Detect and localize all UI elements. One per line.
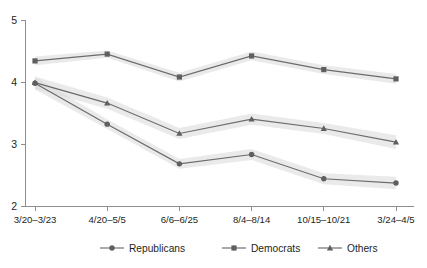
confidence-bands (35, 50, 396, 189)
data-point-republicans (393, 180, 398, 185)
legend-label-others: Others (347, 243, 378, 254)
x-tick-label: 6/6–6/25 (161, 214, 198, 225)
chart-plot-area: 2345 3/20–3/234/20–5/56/6–6/258/4–8/1410… (0, 0, 427, 268)
data-point-democrats (393, 76, 398, 81)
legend-label-democrats: Democrats (251, 243, 300, 254)
data-point-democrats (249, 53, 254, 58)
legend-label-republicans: Republicans (129, 243, 185, 254)
x-tick-label: 4/20–5/5 (89, 214, 126, 225)
data-point-republicans (321, 176, 326, 181)
data-point-republicans (177, 161, 182, 166)
data-point-republicans (105, 121, 110, 126)
x-tick-label: 3/24–4/5 (377, 214, 414, 225)
y-axis-ticks: 2345 (11, 14, 25, 212)
chart-legend: RepublicansDemocratsOthers (100, 243, 378, 254)
y-tick-label: 2 (11, 200, 17, 212)
x-axis-ticks: 3/20–3/234/20–5/56/6–6/258/4–8/1410/15–1… (14, 207, 415, 226)
y-tick-label: 4 (11, 76, 17, 88)
legend-marker-square (231, 245, 236, 250)
x-tick-label: 3/20–3/23 (14, 214, 57, 225)
legend-marker-circle (109, 245, 114, 250)
data-point-democrats (32, 58, 37, 63)
line-chart: 2345 3/20–3/234/20–5/56/6–6/258/4–8/1410… (0, 0, 427, 268)
x-tick-label: 10/15–10/21 (297, 214, 350, 225)
data-point-democrats (105, 52, 110, 57)
x-tick-label: 8/4–8/14 (233, 214, 271, 225)
y-tick-label: 3 (11, 138, 17, 150)
data-point-democrats (321, 67, 326, 72)
data-point-democrats (177, 74, 182, 79)
data-point-republicans (249, 152, 254, 157)
y-tick-label: 5 (11, 14, 17, 26)
